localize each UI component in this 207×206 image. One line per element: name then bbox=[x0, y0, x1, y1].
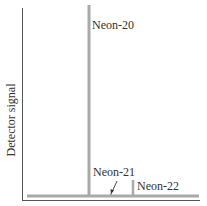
neon-22-label: Neon-22 bbox=[137, 179, 179, 194]
neon-21-arrow-icon bbox=[111, 181, 118, 194]
neon-21-label: Neon-21 bbox=[93, 165, 135, 180]
mass-spectrum-chart: Detector signal Neon-20 Neon-21 Neon-22 bbox=[0, 0, 207, 206]
y-axis-label-text: Detector signal bbox=[4, 84, 19, 157]
neon-20-label: Neon-20 bbox=[92, 18, 134, 33]
y-axis-label: Detector signal bbox=[4, 60, 18, 180]
